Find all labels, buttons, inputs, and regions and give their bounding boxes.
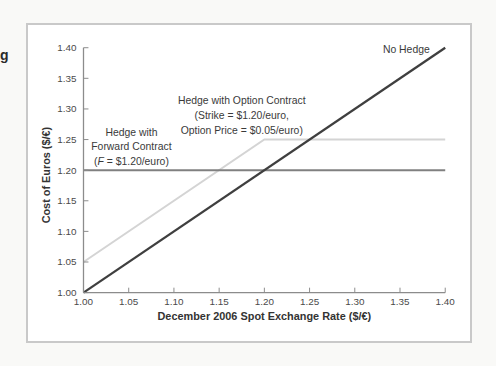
option-hedge-label: Option Price = $0.05/euro) bbox=[181, 125, 303, 136]
y-tick-label: 1.15 bbox=[57, 195, 77, 206]
y-tick-label: 1.05 bbox=[57, 256, 77, 267]
x-tick-label: 1.25 bbox=[300, 296, 320, 307]
y-tick-label: 1.00 bbox=[57, 287, 77, 298]
hedging-cost-chart-panel: 1.001.051.101.151.201.251.301.351.401.00… bbox=[26, 23, 472, 343]
forward-hedge-label: (F = $1.20/euro) bbox=[94, 156, 169, 167]
x-axis-title: December 2006 Spot Exchange Rate ($/€) bbox=[157, 310, 371, 322]
option-hedge-label: (Strike = $1.20/euro, bbox=[195, 110, 289, 121]
y-tick-label: 1.25 bbox=[57, 134, 77, 145]
y-tick-label: 1.10 bbox=[57, 226, 77, 237]
no-hedge-label: No Hedge bbox=[383, 44, 430, 55]
caption-fragment: g bbox=[0, 47, 9, 63]
x-tick-label: 1.15 bbox=[210, 296, 230, 307]
y-tick-label: 1.40 bbox=[57, 42, 77, 53]
option-hedge-label: Hedge with Option Contract bbox=[178, 96, 306, 107]
y-tick-label: 1.35 bbox=[57, 73, 77, 84]
y-axis-title: Cost of Euros ($/€) bbox=[40, 126, 52, 223]
x-tick-label: 1.40 bbox=[436, 296, 456, 307]
x-tick-label: 1.00 bbox=[74, 296, 94, 307]
hedging-cost-chart: 1.001.051.101.151.201.251.301.351.401.00… bbox=[28, 25, 470, 341]
forward-hedge-label: Forward Contract bbox=[91, 141, 171, 152]
y-tick-label: 1.30 bbox=[57, 103, 77, 114]
forward-hedge-label: Hedge with bbox=[105, 127, 157, 138]
page-background: g 1.001.051.101.151.201.251.301.351.401.… bbox=[0, 0, 496, 366]
x-tick-label: 1.20 bbox=[255, 296, 275, 307]
x-tick-label: 1.30 bbox=[345, 296, 365, 307]
x-tick-label: 1.05 bbox=[119, 296, 139, 307]
x-tick-label: 1.10 bbox=[164, 296, 184, 307]
y-tick-label: 1.20 bbox=[57, 165, 77, 176]
x-tick-label: 1.35 bbox=[390, 296, 410, 307]
